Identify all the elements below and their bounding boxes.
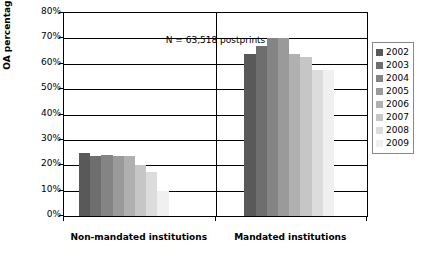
legend-item[interactable]: 2002 [376,46,409,59]
y-axis-tick-label: 80% [21,7,61,16]
legend-item[interactable]: 2006 [376,98,409,111]
bar [124,156,135,216]
legend-item-label: 2005 [386,87,409,96]
legend: 20022003200420052006200720082009 [372,42,414,154]
y-axis-tick-label: 60% [21,58,61,67]
legend-item-label: 2003 [386,61,409,70]
legend-swatch-icon [376,62,383,69]
legend-item-label: 2002 [386,48,409,57]
y-axis-tick-label: 0% [21,210,61,219]
legend-swatch-icon [376,114,383,121]
bar [256,46,267,216]
plot-area: N = 63,518 postprints [63,12,368,217]
legend-item[interactable]: 2009 [376,137,409,150]
bar [244,54,255,216]
y-axis-tick-label: 10% [21,185,61,194]
legend-swatch-icon [376,49,383,56]
bar [300,57,311,216]
legend-swatch-icon [376,101,383,108]
y-axis-tick-label: 70% [21,32,61,41]
x-axis-category-label: Mandated institutions [200,232,380,242]
legend-swatch-icon [376,127,383,134]
bar [157,191,168,216]
y-axis-tick-mark [59,37,63,38]
legend-item[interactable]: 2003 [376,59,409,72]
x-axis-tick-mark [63,217,64,221]
legend-item-label: 2009 [386,139,409,148]
bar [135,165,146,216]
legend-item-label: 2008 [386,126,409,135]
y-axis-tick-mark [59,190,63,191]
y-axis-tick-label: 50% [21,83,61,92]
y-axis-tick-label: 30% [21,134,61,143]
legend-item[interactable]: 2004 [376,72,409,85]
y-axis-tick-labels: 80%70%60%50%40%30%20%10%0% [16,12,61,217]
y-axis-tick-mark [59,63,63,64]
x-axis-tick-mark [366,217,367,221]
bar [289,54,300,216]
chart-annotation: N = 63,518 postprints [64,35,367,45]
legend-swatch-icon [376,75,383,82]
y-axis-tick-mark [59,139,63,140]
legend-swatch-icon [376,140,383,147]
bar [312,70,323,216]
y-axis-tick-mark [59,88,63,89]
y-axis-tick-label: 40% [21,109,61,118]
bar [90,156,101,216]
legend-swatch-icon [376,88,383,95]
y-axis-title: OA percentage [2,0,12,92]
legend-item-label: 2007 [386,113,409,122]
bar [278,38,289,216]
chart-container: OA percentage 80%70%60%50%40%30%20%10%0%… [0,0,429,259]
bar [267,38,278,216]
y-axis-tick-mark [59,12,63,13]
legend-item-label: 2006 [386,100,409,109]
y-axis-tick-label: 20% [21,159,61,168]
legend-item-label: 2004 [386,74,409,83]
y-axis-tick-mark [59,114,63,115]
legend-item[interactable]: 2008 [376,124,409,137]
legend-item[interactable]: 2007 [376,111,409,124]
bar [101,155,112,216]
legend-item[interactable]: 2005 [376,85,409,98]
y-axis-tick-mark [59,164,63,165]
bar [113,156,124,216]
y-axis-title-text: OA percentage [2,0,12,92]
bar [79,153,90,216]
x-axis-tick-mark [215,217,216,221]
bar [323,70,334,216]
y-axis-tick-mark [59,215,63,216]
bar [146,172,157,216]
